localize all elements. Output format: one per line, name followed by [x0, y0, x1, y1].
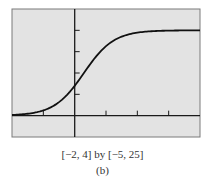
- window-range-caption: [−2, 4] by [−5, 25]: [0, 148, 205, 160]
- graph-window: [0, 0, 205, 145]
- plot-panel: [12, 9, 200, 137]
- subfigure-label: (b): [0, 164, 205, 176]
